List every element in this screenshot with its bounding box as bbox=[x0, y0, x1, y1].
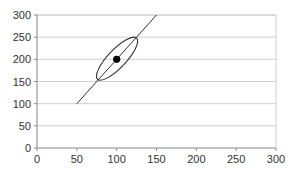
y-tick-label: 0 bbox=[25, 142, 31, 154]
scatter-line-chart: 050100150200250300 050100150200250300 bbox=[0, 0, 294, 175]
x-tick-label: 0 bbox=[34, 153, 40, 165]
x-tick-label: 100 bbox=[107, 153, 125, 165]
y-tick-label: 100 bbox=[13, 98, 31, 110]
y-axis-ticks: 050100150200250300 bbox=[13, 9, 37, 154]
data-point bbox=[113, 56, 120, 63]
x-tick-label: 50 bbox=[71, 153, 83, 165]
gridlines bbox=[37, 15, 276, 126]
x-axis-ticks: 050100150200250300 bbox=[34, 148, 285, 165]
x-tick-label: 300 bbox=[267, 153, 285, 165]
y-tick-label: 50 bbox=[19, 120, 31, 132]
y-tick-label: 300 bbox=[13, 9, 31, 21]
x-tick-label: 150 bbox=[147, 153, 165, 165]
y-tick-label: 150 bbox=[13, 76, 31, 88]
x-tick-label: 200 bbox=[187, 153, 205, 165]
y-tick-label: 200 bbox=[13, 53, 31, 65]
x-tick-label: 250 bbox=[227, 153, 245, 165]
y-tick-label: 250 bbox=[13, 31, 31, 43]
